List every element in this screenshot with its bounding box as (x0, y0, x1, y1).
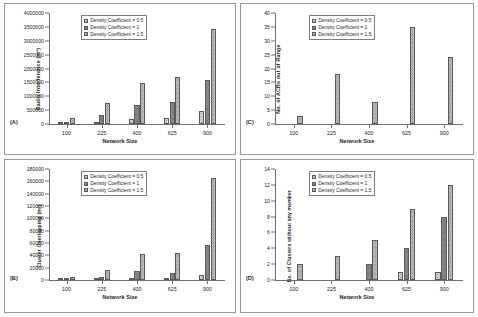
panel-a-y-tick-label: 2000000 (24, 66, 44, 72)
panel-a-bar (129, 119, 134, 124)
panel-c-x-tick-mark (294, 124, 295, 128)
panel-d-x-tick-mark (407, 280, 408, 284)
panel-c-y-tick-label: 20 (264, 66, 270, 72)
panel-d-bar (448, 185, 453, 280)
panel-d-y-tick-label: 8 (267, 214, 270, 220)
panel-a-y-tick-label: 1000000 (24, 93, 44, 99)
panel-b-bar (105, 270, 110, 280)
panel-a-bar (99, 115, 104, 124)
panel-c-x-tick-label: 225 (327, 130, 336, 136)
panel-d-x-tick-mark (294, 280, 295, 284)
panel-b-x-tick-label: 225 (97, 286, 106, 292)
panel-b-y-tick-label: 120000 (27, 203, 44, 209)
panel-a-y-tick-label: 4000000 (24, 10, 44, 16)
panel-a-bar (205, 80, 210, 124)
panel-b-x-tick-mark (67, 280, 68, 284)
legend-swatch-icon (84, 32, 88, 36)
panel-c-x-axis-title: Network Size (241, 138, 473, 144)
panel-b-bar (164, 278, 169, 280)
panel-d-legend-item: Density Coefficient = 0.5 (312, 174, 372, 180)
panel-a-y-tick-label: 0 (41, 121, 44, 127)
panel-b-bar (199, 275, 204, 280)
panel-a-bar (70, 118, 75, 124)
panel-c-y-tick-label: 5 (267, 107, 270, 113)
panel-a: Radio Interference (m²) 0500000100000015… (4, 3, 236, 155)
panel-c: No. of ACBs out of Range 051015202530354… (240, 3, 474, 155)
panel-d-bar (441, 217, 446, 280)
panel-b-legend-item: Density Coefficient = 1.5 (84, 188, 144, 194)
panel-a-x-tick-label: 400 (133, 130, 142, 136)
panel-c-x-tick-mark (407, 124, 408, 128)
panel-c-plot: No. of ACBs out of Range 051015202530354… (241, 4, 473, 154)
panel-a-bar (199, 111, 204, 124)
panel-d-x-tick-label: 400 (365, 286, 374, 292)
panel-b-x-tick-mark (172, 280, 173, 284)
panel-c-bar (335, 74, 340, 124)
panel-a-bar (105, 103, 110, 124)
legend-swatch-icon (84, 26, 88, 30)
legend-swatch-icon (312, 188, 316, 192)
panel-a-bar (211, 29, 216, 124)
panel-b-y-tick-label: 180000 (27, 166, 44, 172)
legend-swatch-icon (84, 19, 88, 23)
panel-a-bar (170, 102, 175, 124)
panel-c-legend-item: Density Coefficient = 1.5 (312, 32, 372, 38)
panel-d-y-tick-label: 10 (264, 198, 270, 204)
panel-c-x-tick-mark (444, 124, 445, 128)
panel-c-y-tick-label: 40 (264, 10, 270, 16)
panel-b: Cluster Overlapping (m²) 020000400006000… (4, 159, 236, 313)
panel-b-legend: Density Coefficient = 0.5Density Coeffic… (81, 171, 148, 196)
panel-b-bar (205, 245, 210, 280)
panel-b-x-tick-mark (102, 280, 103, 284)
panel-a-bar (134, 105, 139, 124)
panel-d-bar (366, 264, 371, 280)
legend-swatch-icon (312, 175, 316, 179)
panel-d-y-tick-label: 2 (267, 261, 270, 267)
panel-a-legend-item: Density Coefficient = 1 (84, 25, 144, 31)
panel-d-bar (435, 272, 440, 280)
panel-a-x-tick-mark (137, 124, 138, 128)
panel-d-plot: No. of Clusters without any member 02468… (241, 160, 473, 312)
panel-d-bar (398, 272, 403, 280)
panel-b-bar (140, 254, 145, 280)
legend-swatch-icon (84, 175, 88, 179)
panel-a-y-axis-ticks: 0500000100000015000002000000250000030000… (5, 4, 49, 154)
panel-d-y-tick-label: 6 (267, 229, 270, 235)
panel-a-x-tick-label: 225 (97, 130, 106, 136)
panel-c-legend-label: Density Coefficient = 0.5 (318, 18, 371, 24)
panel-b-y-tick-label: 160000 (27, 178, 44, 184)
panel-d-x-tick-label: 900 (440, 286, 449, 292)
panel-d-legend: Density Coefficient = 0.5Density Coeffic… (309, 171, 376, 196)
panel-a-legend: Density Coefficient = 0.5Density Coeffic… (81, 15, 148, 40)
panel-b-x-tick-label: 400 (133, 286, 142, 292)
panel-b-y-tick-label: 40000 (30, 252, 44, 258)
panel-c-y-axis-ticks: 0510152025303540 (241, 4, 275, 154)
panel-d-bar (410, 209, 415, 280)
panel-d-x-tick-mark (444, 280, 445, 284)
figure-panel-grid: Radio Interference (m²) 0500000100000015… (0, 0, 478, 317)
panel-d-y-tick-label: 0 (267, 277, 270, 283)
panel-d-y-tick-label: 12 (264, 182, 270, 188)
panel-a-y-tick-label: 2500000 (24, 52, 44, 58)
panel-c-x-tick-mark (369, 124, 370, 128)
panel-d-x-tick-mark (331, 280, 332, 284)
panel-b-bar (211, 178, 216, 280)
panel-c-x-tick-label: 100 (289, 130, 298, 136)
panel-b-x-tick-label: 100 (62, 286, 71, 292)
panel-a-bar (94, 122, 99, 124)
panel-a-x-axis-title: Network Size (5, 138, 235, 144)
panel-b-letter: (B) (10, 275, 18, 281)
panel-c-legend-label: Density Coefficient = 1 (318, 25, 367, 31)
panel-a-letter: (A) (10, 119, 18, 125)
panel-d-bar (335, 256, 340, 280)
panel-d-bar (404, 248, 409, 280)
panel-d-letter: (D) (246, 275, 254, 281)
panel-d-legend-item: Density Coefficient = 1.5 (312, 188, 372, 194)
panel-d-bar (372, 240, 377, 280)
panel-c-y-tick-label: 15 (264, 79, 270, 85)
panel-a-x-tick-mark (207, 124, 208, 128)
panel-d-x-tick-label: 625 (402, 286, 411, 292)
legend-swatch-icon (84, 188, 88, 192)
panel-c-y-tick-label: 35 (264, 24, 270, 30)
panel-a-x-tick-label: 900 (203, 130, 212, 136)
